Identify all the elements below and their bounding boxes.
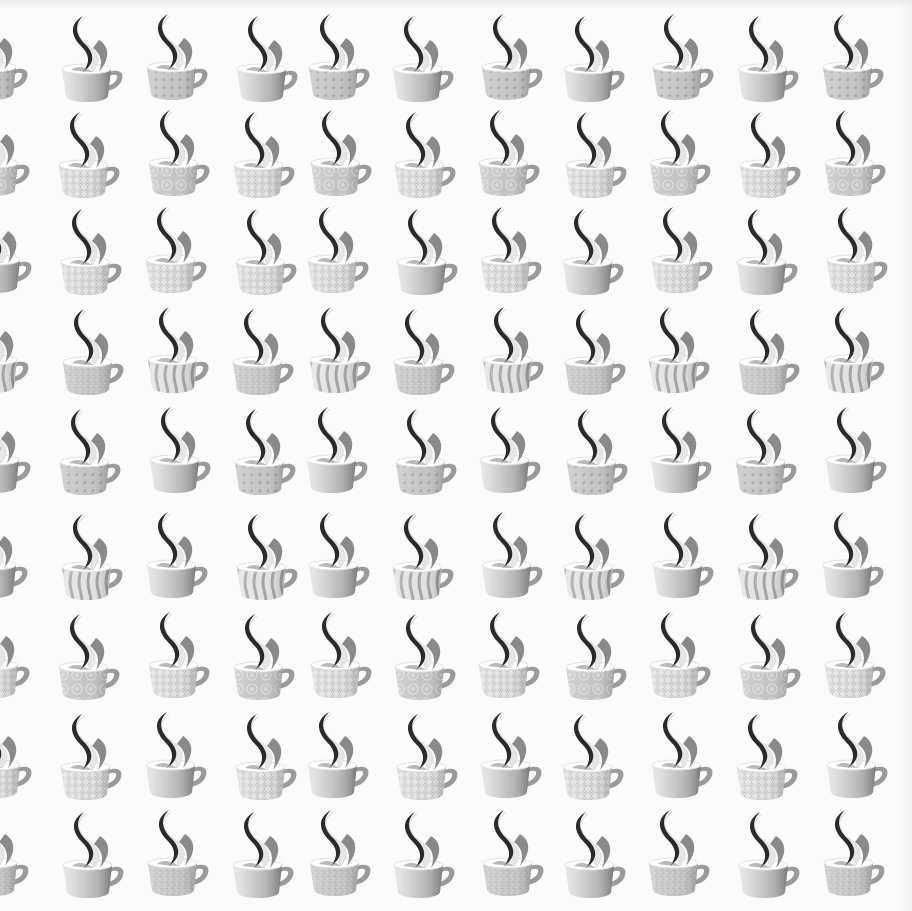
top-edge-shadow <box>0 0 912 8</box>
coffee-cup-diamond <box>392 110 458 202</box>
coffee-cup-speckle <box>391 307 457 399</box>
coffee-cup-plain <box>394 207 460 299</box>
coffee-cup-medallion <box>563 612 629 704</box>
coffee-cup-plain <box>306 510 372 602</box>
coffee-cup-zebra <box>480 305 546 397</box>
coffee-cup-diamond <box>58 712 124 804</box>
coffee-cup-zebra <box>145 305 211 397</box>
coffee-cup-medallion <box>308 108 374 200</box>
coffee-cup-diamond <box>0 710 34 802</box>
coffee-cup-plain <box>305 710 371 802</box>
coffee-cup-speckle <box>0 808 31 900</box>
coffee-cup-diamond <box>478 205 544 297</box>
coffee-cup-medallion <box>392 612 458 704</box>
coffee-cup-plain <box>648 405 714 497</box>
coffee-cup-dots <box>650 12 716 104</box>
coffee-cup-plain <box>734 207 800 299</box>
coffee-cup-zebra <box>59 512 125 604</box>
coffee-cup-diamond <box>737 110 803 202</box>
coffee-cup-plain <box>234 14 300 106</box>
coffee-cup-dots <box>820 12 886 104</box>
coffee-cup-plain <box>820 510 886 602</box>
coffee-cup-zebra <box>735 512 801 604</box>
coffee-cup-medallion <box>647 108 713 200</box>
coffee-cup-plain <box>59 14 125 106</box>
coffee-cup-dots <box>0 12 30 104</box>
coffee-cup-dots <box>564 407 630 499</box>
coffee-cup-plain <box>561 14 627 106</box>
coffee-cup-plain <box>143 710 209 802</box>
coffee-cup-dots <box>306 12 372 104</box>
coffee-cup-zebra <box>234 512 300 604</box>
coffee-cup-plain <box>390 14 456 106</box>
coffee-cup-medallion <box>231 612 297 704</box>
coffee-cup-dots <box>57 407 123 499</box>
coffee-cup-plain <box>649 710 715 802</box>
coffee-cup-zebra <box>646 305 712 397</box>
coffee-cup-diamond <box>233 712 299 804</box>
coffee-cup-diamond <box>56 110 122 202</box>
coffee-cup-plain <box>562 810 628 902</box>
coffee-cup-dots <box>479 12 545 104</box>
coffee-cup-plain <box>560 207 626 299</box>
coffee-cup-pattern <box>0 0 912 911</box>
right-edge-shadow <box>898 0 912 911</box>
coffee-cup-diamond <box>560 712 626 804</box>
coffee-cup-medallion <box>476 108 542 200</box>
coffee-cup-dots <box>144 12 210 104</box>
coffee-cup-plain <box>230 810 296 902</box>
coffee-cup-diamond <box>233 207 299 299</box>
coffee-cup-plain <box>0 405 33 497</box>
coffee-cup-diamond <box>146 610 212 702</box>
coffee-cup-diamond <box>476 610 542 702</box>
coffee-cup-plain <box>147 405 213 497</box>
coffee-cup-diamond <box>649 205 715 297</box>
coffee-cup-dots <box>232 407 298 499</box>
coffee-cup-zebra <box>390 512 456 604</box>
coffee-cup-plain <box>479 510 545 602</box>
coffee-cup-plain <box>736 810 802 902</box>
coffee-cup-diamond <box>734 712 800 804</box>
coffee-cup-plain <box>824 710 890 802</box>
coffee-cup-medallion <box>56 612 122 704</box>
coffee-cup-zebra <box>307 305 373 397</box>
coffee-cup-diamond <box>563 110 629 202</box>
coffee-cup-plain <box>0 510 30 602</box>
coffee-cup-diamond <box>305 205 371 297</box>
coffee-cup-speckle <box>480 808 546 900</box>
coffee-cup-plain <box>391 810 457 902</box>
coffee-cup-medallion <box>0 108 32 200</box>
coffee-cup-plain <box>0 205 34 297</box>
coffee-cup-medallion <box>737 612 803 704</box>
coffee-cup-zebra <box>0 305 31 397</box>
coffee-cup-diamond <box>822 610 888 702</box>
coffee-cup-diamond <box>0 610 32 702</box>
coffee-cup-diamond <box>394 712 460 804</box>
coffee-cup-diamond <box>308 610 374 702</box>
coffee-cup-plain <box>735 14 801 106</box>
coffee-cup-speckle <box>307 808 373 900</box>
coffee-cup-plain <box>144 510 210 602</box>
coffee-cup-diamond <box>143 205 209 297</box>
coffee-cup-dots <box>393 407 459 499</box>
coffee-cup-diamond <box>647 610 713 702</box>
coffee-cup-plain <box>477 405 543 497</box>
coffee-cup-diamond <box>231 110 297 202</box>
coffee-cup-plain <box>823 405 889 497</box>
coffee-cup-speckle <box>60 307 126 399</box>
coffee-cup-diamond <box>824 205 890 297</box>
coffee-cup-speckle <box>562 307 628 399</box>
coffee-cup-plain <box>60 810 126 902</box>
coffee-cup-dots <box>733 407 799 499</box>
coffee-cup-medallion <box>146 108 212 200</box>
coffee-cup-medallion <box>822 108 888 200</box>
coffee-cup-plain <box>650 510 716 602</box>
coffee-cup-diamond <box>58 207 124 299</box>
coffee-cup-speckle <box>736 307 802 399</box>
coffee-cup-speckle <box>821 808 887 900</box>
coffee-cup-zebra <box>561 512 627 604</box>
coffee-cup-zebra <box>821 305 887 397</box>
coffee-cup-plain <box>478 710 544 802</box>
coffee-cup-speckle <box>145 808 211 900</box>
coffee-cup-plain <box>304 405 370 497</box>
